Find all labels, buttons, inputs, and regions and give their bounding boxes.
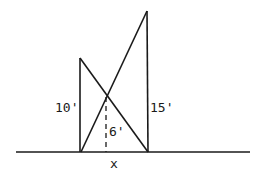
ground-distance-label: x: [110, 156, 118, 171]
intersection-height-label: 6': [109, 124, 125, 139]
diagram-canvas: 10' 15' 6' x: [0, 0, 263, 176]
left-pole-label: 10': [55, 100, 78, 115]
right-pole-label: 15': [150, 100, 173, 115]
right-pole: [147, 11, 148, 152]
